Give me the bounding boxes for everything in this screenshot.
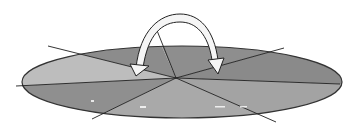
disc-diagram — [0, 0, 352, 139]
disc — [0, 20, 352, 139]
